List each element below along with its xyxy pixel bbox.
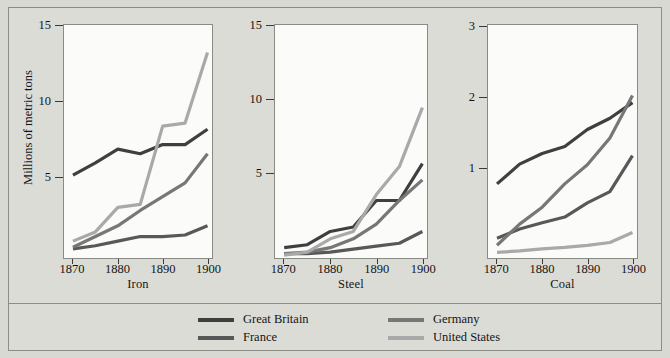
y-tick-iron-5-dash (55, 177, 63, 178)
legend-item-france: France (198, 330, 277, 345)
plot-area-coal (488, 25, 637, 258)
line-united-states (284, 108, 422, 255)
y-tick-steel-5: 5 (229, 166, 274, 181)
legend-label-germany: Germany (433, 312, 480, 327)
legend-label-france: France (243, 330, 277, 345)
y-tick-iron-15-dash (55, 25, 63, 26)
x-axis-title-coal: Coal (487, 277, 638, 292)
y-tick-coal-3-label: 3 (469, 19, 475, 33)
y-tick-iron-10-label: 10 (39, 94, 52, 108)
legend-item-germany: Germany (388, 312, 480, 327)
y-axis-title: Millions of metric tons (21, 38, 36, 218)
y-tick-iron-10-dash (55, 101, 63, 102)
legend-item-united-states: United States (388, 330, 500, 345)
x-tick-label-iron-1890: 1890 (151, 262, 176, 277)
y-tick-coal-2-label: 2 (469, 90, 475, 104)
y-tick-coal-1-dash (479, 168, 487, 169)
panel-iron (63, 24, 213, 259)
line-great-britain (284, 164, 422, 248)
legend-label-great-britain: Great Britain (243, 312, 309, 327)
y-tick-iron-5-label: 5 (45, 170, 51, 184)
line-great-britain (73, 129, 208, 175)
y-tick-steel-10-dash (266, 99, 274, 100)
panel-group: Millions of metric tons 15 10 5 15 10 5 … (0, 0, 670, 300)
y-tick-steel-10-label: 10 (250, 92, 263, 106)
y-tick-coal-3: 3 (442, 19, 487, 34)
legend-swatch-france (198, 336, 234, 340)
x-tick-label-steel-1900: 1900 (411, 262, 436, 277)
y-tick-steel-5-label: 5 (256, 166, 262, 180)
y-tick-steel-10: 10 (229, 92, 274, 107)
y-tick-steel-15-dash (266, 25, 274, 26)
x-tick-label-coal-1880: 1880 (529, 262, 554, 277)
y-tick-steel-15-label: 15 (250, 18, 263, 32)
y-tick-iron-15: 15 (18, 18, 63, 33)
legend-label-united-states: United States (433, 330, 500, 345)
chart-figure: Millions of metric tons 15 10 5 15 10 5 … (0, 0, 670, 358)
line-united-states (73, 53, 208, 242)
y-tick-steel-5-dash (266, 173, 274, 174)
x-tick-label-iron-1900: 1900 (196, 262, 221, 277)
line-france (284, 231, 422, 253)
y-tick-iron-5: 5 (18, 170, 63, 185)
x-tick-label-iron-1870: 1870 (60, 262, 85, 277)
x-tick-label-coal-1890: 1890 (575, 262, 600, 277)
chart-legend: Great Britain France Germany United Stat… (8, 303, 662, 350)
x-tick-label-coal-1900: 1900 (621, 262, 646, 277)
y-tick-coal-1: 1 (442, 161, 487, 176)
y-tick-coal-2: 2 (442, 90, 487, 105)
legend-swatch-united-states (388, 336, 424, 340)
plot-area-iron (64, 25, 212, 258)
x-tick-label-steel-1890: 1890 (364, 262, 389, 277)
x-tick-label-steel-1880: 1880 (318, 262, 343, 277)
legend-swatch-germany (388, 318, 424, 322)
y-tick-iron-10: 10 (18, 94, 63, 109)
y-tick-coal-3-dash (479, 26, 487, 27)
plot-area-steel (275, 25, 427, 258)
x-tick-label-coal-1870: 1870 (484, 262, 509, 277)
panel-coal (487, 24, 638, 259)
line-great-britain (497, 103, 632, 184)
x-axis-title-iron: Iron (63, 277, 213, 292)
x-tick-label-steel-1870: 1870 (271, 262, 296, 277)
x-axis-title-steel: Steel (274, 277, 428, 292)
y-tick-iron-15-label: 15 (39, 18, 52, 32)
legend-swatch-great-britain (198, 318, 234, 322)
legend-item-great-britain: Great Britain (198, 312, 309, 327)
x-tick-label-iron-1880: 1880 (105, 262, 130, 277)
y-tick-coal-1-label: 1 (469, 161, 475, 175)
y-tick-coal-2-dash (479, 97, 487, 98)
y-tick-steel-15: 15 (229, 18, 274, 33)
panel-steel (274, 24, 428, 259)
line-united-states (497, 233, 632, 253)
